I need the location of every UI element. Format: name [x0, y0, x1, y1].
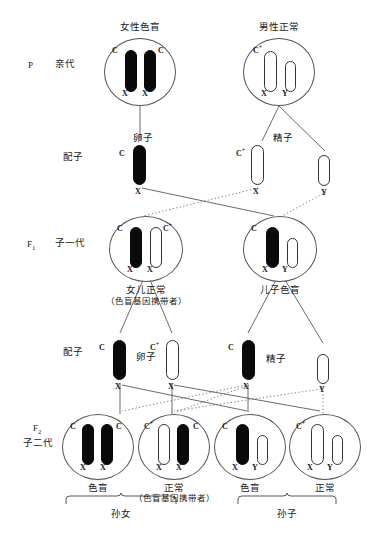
pedigree-diagram: P 亲代 F1 子一代 F2 子二代 女性色盲 C C X X 男性正常 C+ … — [0, 0, 373, 542]
sex-chromosome-label: X — [232, 464, 238, 472]
sperm-label-2: 精子 — [266, 354, 286, 364]
brace-label-granddaughters: 孙女 — [111, 509, 131, 519]
f2-caption-2-detail: （色盲基因携带者） — [134, 494, 215, 503]
generation-label-p: 亲代 — [55, 59, 75, 69]
sex-chromosome-label: Y — [327, 464, 333, 472]
allele-label: C — [116, 423, 122, 431]
chromosome-y — [332, 435, 343, 465]
egg-label-2: 卵子 — [136, 352, 156, 362]
generation-code-f1: F1 — [27, 240, 35, 251]
generation-code-f2: F2 — [33, 424, 41, 435]
sex-chromosome-label: X — [122, 90, 128, 98]
sex-chromosome-label: Y — [321, 189, 327, 197]
sex-chromosome-label: X — [168, 383, 174, 391]
f2-caption-2: 正常 — [164, 483, 184, 493]
gamete-chromosome-egg-c-2 — [113, 340, 126, 380]
chromosome-x-c-plus — [150, 227, 162, 268]
allele-label: C — [112, 47, 118, 55]
chromosome-y-paternal — [285, 61, 296, 92]
parent-title-female: 女性色盲 — [120, 22, 160, 32]
f1-caption-daughter: 女儿正常 — [126, 285, 166, 295]
sex-chromosome-label: X — [176, 464, 182, 472]
generation-label-f1: 子一代 — [55, 238, 85, 248]
allele-label: C+ — [253, 47, 262, 55]
sex-chromosome-label: X — [115, 383, 121, 391]
chromosome-x-c-plus — [158, 424, 170, 465]
gamete-chromosome-sperm-c-2 — [242, 340, 255, 380]
allele-label: C — [193, 423, 199, 431]
chromosome-x-c-plus — [311, 424, 324, 465]
allele-label: C+ — [150, 344, 159, 352]
gamete-row-label-2: 配子 — [63, 347, 83, 357]
sex-chromosome-label: X — [261, 90, 267, 98]
brace-label-grandsons: 孙子 — [277, 509, 297, 519]
sex-chromosome-label: X — [253, 188, 259, 196]
gamete-row-label-1: 配子 — [63, 152, 83, 162]
generation-code-p: P — [28, 61, 33, 70]
allele-label: C+ — [296, 423, 305, 431]
gamete-chromosome-sperm-x — [251, 145, 264, 185]
gamete-chromosome-sperm-y-2 — [317, 354, 329, 384]
sex-chromosome-label: X — [307, 464, 313, 472]
chromosome-x-maternal-1 — [125, 50, 137, 92]
sex-chromosome-label: X — [243, 383, 249, 391]
sex-chromosome-label: X — [127, 266, 133, 274]
sex-chromosome-label: Y — [319, 386, 325, 394]
f2-caption-3: 色盲 — [240, 483, 260, 493]
allele-label: C — [70, 423, 76, 431]
allele-label: C — [228, 344, 234, 352]
allele-label: C — [99, 344, 105, 352]
sex-chromosome-label: Y — [252, 464, 258, 472]
chromosome-x-c — [101, 424, 113, 465]
sex-chromosome-label: X — [135, 188, 141, 196]
chromosome-x-c — [130, 227, 142, 268]
chromosome-x-c — [82, 424, 94, 465]
chromosome-x-c — [266, 227, 279, 268]
gamete-chromosome-egg-cplus-2 — [166, 340, 179, 380]
allele-label: C — [158, 47, 164, 55]
f2-caption-1: 色盲 — [88, 483, 108, 493]
sex-chromosome-label: X — [100, 464, 106, 472]
allele-label: C+ — [236, 150, 245, 158]
chromosome-x-paternal — [264, 51, 277, 92]
sex-chromosome-label: Y — [282, 90, 288, 98]
f1-caption-daughter-detail: （色盲基因携带者） — [106, 297, 187, 306]
egg-label-1: 卵子 — [133, 133, 153, 143]
allele-label: C — [119, 150, 125, 158]
chromosome-y — [287, 238, 298, 268]
chromosome-y — [257, 435, 268, 465]
sex-chromosome-label: X — [156, 464, 162, 472]
generation-label-f2: 子二代 — [23, 438, 53, 448]
chromosome-x-c — [236, 424, 249, 465]
gamete-chromosome-sperm-y — [318, 155, 330, 186]
sex-chromosome-label: Y — [282, 266, 288, 274]
f2-caption-4: 正常 — [315, 483, 335, 493]
sex-chromosome-label: X — [142, 90, 148, 98]
allele-label: C+ — [163, 225, 172, 233]
allele-label: C — [222, 423, 228, 431]
parent-title-male: 男性正常 — [259, 22, 299, 32]
sperm-label-1: 精子 — [273, 133, 293, 143]
allele-label: C — [117, 225, 123, 233]
sex-chromosome-label: X — [262, 266, 268, 274]
allele-label: C — [251, 225, 257, 233]
sex-chromosome-label: X — [147, 266, 153, 274]
sex-chromosome-label: X — [80, 464, 86, 472]
f1-caption-son: 儿子色盲 — [260, 285, 300, 295]
gamete-chromosome-egg-c — [133, 145, 146, 185]
chromosome-x-maternal-2 — [144, 50, 156, 92]
chromosome-x-c — [177, 424, 189, 465]
allele-label: C+ — [144, 423, 153, 431]
